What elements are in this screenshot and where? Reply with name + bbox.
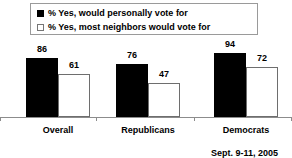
x-axis-line	[0, 117, 292, 118]
chart-legend: % Yes, would personally vote for % Yes, …	[30, 3, 258, 35]
axis-tick	[194, 117, 195, 121]
legend-item-label: % Yes, most neighbors would vote for	[48, 22, 210, 32]
bar-value-label: 72	[246, 53, 278, 63]
bar-republicans-neighbors	[148, 83, 180, 117]
hollow-square-icon	[37, 24, 44, 31]
bar-value-label: 61	[58, 60, 90, 70]
category-label-republicans: Republicans	[116, 125, 180, 136]
axis-tick	[291, 117, 292, 121]
chart-screenshot: % Yes, would personally vote for % Yes, …	[0, 0, 292, 158]
filled-square-icon	[37, 10, 44, 17]
bar-value-label: 76	[116, 50, 148, 60]
bar-republicans-personally	[116, 64, 148, 117]
axis-tick	[0, 117, 1, 121]
legend-item-neighbors-vote: % Yes, most neighbors would vote for	[37, 21, 253, 33]
category-label-democrats: Democrats	[214, 125, 278, 136]
bar-democrats-personally	[214, 53, 246, 117]
bar-value-label: 47	[148, 69, 180, 79]
legend-item-label: % Yes, would personally vote for	[48, 8, 188, 18]
axis-tick	[96, 117, 97, 121]
bar-value-label: 94	[214, 39, 246, 49]
bar-overall-personally	[26, 58, 58, 117]
footer-date-note: Sept. 9-11, 2005	[211, 148, 278, 158]
bar-value-label: 86	[26, 44, 58, 54]
legend-item-personally-vote: % Yes, would personally vote for	[37, 7, 253, 19]
bar-democrats-neighbors	[246, 67, 278, 117]
category-label-overall: Overall	[26, 125, 90, 136]
plot-area: 86 61 76 47 94 72	[0, 36, 292, 118]
bar-overall-neighbors	[58, 74, 90, 117]
